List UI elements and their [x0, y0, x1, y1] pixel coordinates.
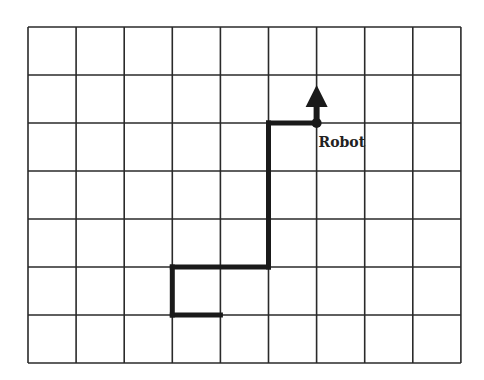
robot-heading-arrow-icon	[306, 85, 328, 107]
grid	[28, 27, 461, 363]
robot: Robot	[306, 85, 366, 150]
robot-label: Robot	[319, 134, 366, 150]
robot-grid-diagram: Robot	[0, 0, 484, 380]
